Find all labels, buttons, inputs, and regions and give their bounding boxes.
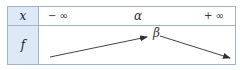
decreasing-arrow (160, 36, 230, 58)
variation-arrows (0, 0, 240, 70)
increasing-arrow (50, 37, 147, 57)
